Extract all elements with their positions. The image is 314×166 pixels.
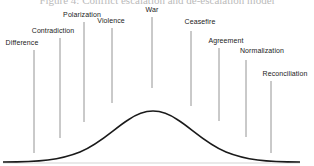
stage-label-war: War: [146, 6, 159, 13]
stage-label-reconciliation: Reconciliation: [263, 70, 308, 77]
stage-label-violence: Violence: [97, 17, 125, 24]
bell-curve: [3, 111, 300, 162]
stage-label-normalization: Normalization: [240, 47, 284, 54]
stage-label-ceasefire: Ceasefire: [185, 18, 216, 25]
stage-label-difference: Difference: [6, 39, 39, 46]
stage-label-agreement: Agreement: [208, 37, 243, 44]
stage-label-contradiction: Contradiction: [32, 27, 75, 34]
stage-label-polarization: Polarization: [63, 11, 101, 18]
bell-curve-diagram: [0, 0, 314, 166]
